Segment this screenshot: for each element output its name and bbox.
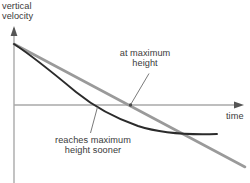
x-axis-label: time xyxy=(226,111,244,121)
velocity-time-figure: vertical velocity time at maximum height… xyxy=(0,0,250,183)
leader-line-sooner xyxy=(91,107,98,133)
y-axis-arrowhead xyxy=(11,26,18,36)
leader-line-max-height xyxy=(131,74,149,105)
annotation-at-maximum-height: at maximum height xyxy=(112,48,178,68)
y-axis-label: vertical velocity xyxy=(2,1,33,21)
annotation-reaches-maximum-height-sooner: reaches maximum height sooner xyxy=(48,135,138,155)
marker-max-height xyxy=(129,103,132,106)
plot-area xyxy=(0,0,250,183)
x-axis-arrowhead xyxy=(234,102,244,109)
